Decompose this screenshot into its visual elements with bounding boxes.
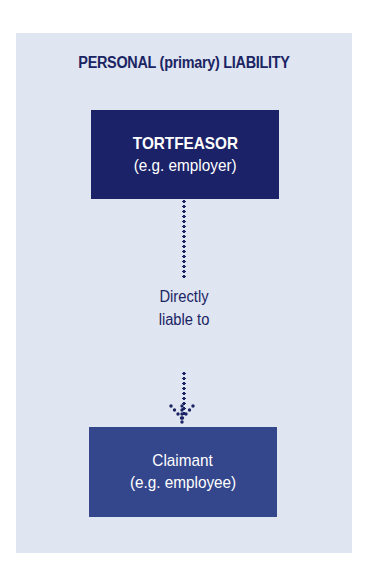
diagram-panel: PERSONAL (primary) LIABILITY TORTFEASOR … <box>16 33 352 553</box>
relationship-line2: liable to <box>29 308 338 331</box>
claimant-label: Claimant <box>153 450 213 472</box>
tortfeasor-label: TORTFEASOR <box>132 133 237 155</box>
claimant-box: Claimant (e.g. employee) <box>89 427 277 517</box>
arrow-down-icon <box>167 403 197 425</box>
tortfeasor-box: TORTFEASOR (e.g. employer) <box>91 110 279 199</box>
dotted-connector-top <box>182 199 186 279</box>
relationship-line1: Directly <box>29 285 338 308</box>
tortfeasor-example: (e.g. employer) <box>134 155 237 177</box>
diagram-title: PERSONAL (primary) LIABILITY <box>33 54 335 72</box>
relationship-label: Directly liable to <box>29 285 338 331</box>
claimant-example: (e.g. employee) <box>130 472 236 494</box>
